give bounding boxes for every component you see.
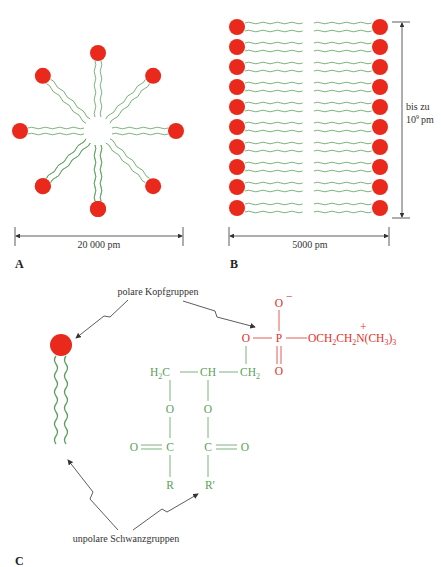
svg-text:H2C: H2C — [150, 366, 170, 381]
svg-text:+: + — [360, 321, 367, 333]
panel-b-bilayer: bis zu 109pm 5000 pm B — [229, 19, 434, 271]
svg-text:O: O — [241, 441, 249, 453]
svg-text:O: O — [166, 403, 174, 415]
bilayer-row — [229, 119, 388, 135]
dimension-b-width: 5000 pm — [229, 227, 389, 250]
phosphocholine-group: O − O P O OCH2CH2N(CH3)3 + — [242, 290, 396, 377]
annotation-nonpolar-tails: unpolare Schwanzgruppen — [73, 533, 179, 544]
bilayer-row — [229, 200, 388, 216]
svg-text:O: O — [242, 332, 250, 344]
bilayer-row — [229, 159, 388, 175]
svg-text:O: O — [130, 441, 138, 453]
bilayer-row — [229, 179, 388, 195]
svg-text:CH: CH — [200, 366, 216, 378]
bilayer-row — [229, 99, 388, 115]
svg-text:P: P — [276, 332, 282, 344]
choline-chain: OCH2CH2N(CH3)3 — [308, 332, 396, 347]
height-label-line2: 109pm — [406, 114, 434, 125]
dimension-b-label: 5000 pm — [292, 239, 328, 250]
svg-text:C: C — [166, 441, 174, 453]
micelle-lipid-bottom-right — [102, 135, 164, 197]
panel-c-phospholipid: polare Kopfgruppen O − O P O OCH2CH2N(CH… — [15, 286, 396, 567]
bilayer-row — [229, 79, 388, 95]
micelle-lipid-right — [112, 123, 184, 139]
bilayer-row — [229, 139, 388, 155]
svg-text:O: O — [204, 403, 212, 415]
bilayer-row — [229, 39, 388, 55]
micelle-lipid-top-right-2 — [102, 65, 164, 127]
schematic-lipid — [50, 334, 72, 444]
arrow-to-r-groups — [133, 494, 198, 530]
bilayer-row — [229, 19, 388, 35]
svg-text:−: − — [286, 290, 293, 302]
amphiphile-figure: 20 000 pm A bis zu 109pm 5000 pm B — [0, 0, 441, 567]
svg-text:R′: R′ — [205, 479, 215, 491]
svg-text:R: R — [166, 479, 174, 491]
arrow-to-phosphate — [183, 301, 255, 327]
height-label-line1: bis zu — [406, 101, 430, 112]
svg-text:O: O — [275, 297, 283, 309]
micelle-lipid-top-2 — [90, 45, 106, 117]
glycerol-backbone: H2C CH CH2 O O O C C O R R′ — [130, 346, 260, 491]
micelle-lipid-left — [12, 123, 84, 139]
arrow-to-head — [76, 300, 128, 338]
panel-a-micelle: 20 000 pm A — [12, 45, 184, 271]
arrow-to-tails — [68, 460, 118, 530]
dimension-a: 20 000 pm — [15, 227, 183, 250]
svg-text:C: C — [204, 441, 212, 453]
panel-label-c: C — [15, 554, 24, 567]
dimension-a-label: 20 000 pm — [78, 239, 121, 250]
panel-label-b: B — [230, 257, 238, 271]
bilayer-row — [229, 59, 388, 75]
svg-text:CH2: CH2 — [240, 366, 260, 381]
micelle-lipid-bottom — [90, 145, 106, 217]
svg-text:O: O — [275, 365, 283, 377]
micelle-lipid-bottom-left — [32, 135, 94, 197]
micelle-lipid-top-left — [32, 65, 94, 127]
panel-label-a: A — [15, 257, 24, 271]
dimension-b-height: bis zu 109pm — [392, 22, 434, 218]
polar-head — [50, 334, 72, 356]
annotation-polar-heads: polare Kopfgruppen — [118, 286, 199, 297]
